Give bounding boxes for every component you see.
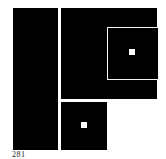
center-dot-upper: [129, 49, 135, 55]
figure-caption: 281: [12, 150, 26, 159]
center-dot-lower: [81, 122, 87, 128]
left-column: [13, 8, 58, 150]
